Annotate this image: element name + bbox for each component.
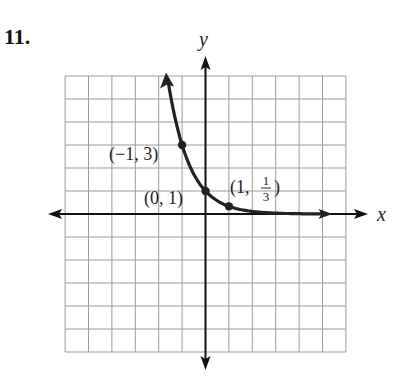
- x-axis-label: x: [376, 203, 386, 225]
- point-label-neg1-3: (−1, 3): [109, 144, 158, 165]
- svg-text:): ): [274, 177, 280, 198]
- svg-text:3: 3: [263, 189, 270, 204]
- point-label-0-1: (0, 1): [144, 188, 183, 209]
- y-axis-label: y: [197, 28, 208, 51]
- svg-text:(1,: (1,: [230, 177, 250, 198]
- graph: y x (−1, 3) (0, 1) (1, 1 3 ): [0, 0, 409, 389]
- svg-text:1: 1: [263, 173, 270, 188]
- point-label-1-third: (1, 1 3 ): [230, 173, 280, 204]
